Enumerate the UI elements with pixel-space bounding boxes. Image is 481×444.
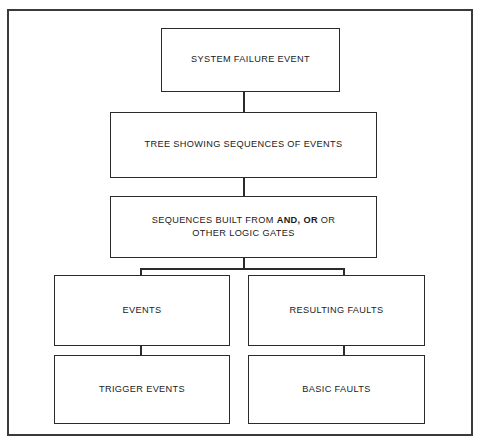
node-sequences-built-from-gates[interactable]: SEQUENCES BUILT FROM AND, OR OR OTHER LO…	[110, 196, 377, 258]
sequences-text-post: OR	[318, 215, 335, 225]
connector-resulting-to-basic-faults	[343, 346, 345, 355]
node-resulting-faults-label: RESULTING FAULTS	[255, 304, 418, 317]
connector-failure-to-tree	[243, 92, 245, 112]
connector-events-to-trigger-events	[140, 346, 142, 355]
node-basic-faults-label: BASIC FAULTS	[255, 383, 418, 396]
connector-branch-bar	[140, 268, 345, 270]
sequences-text-line2: OTHER LOGIC GATES	[192, 228, 294, 238]
node-system-failure-event[interactable]: SYSTEM FAILURE EVENT	[161, 28, 340, 92]
node-trigger-events[interactable]: TRIGGER EVENTS	[54, 355, 230, 424]
node-tree-showing-sequences[interactable]: TREE SHOWING SEQUENCES OF EVENTS	[110, 112, 377, 178]
node-trigger-events-label: TRIGGER EVENTS	[61, 383, 223, 396]
sequences-text-pre: SEQUENCES BUILT FROM	[152, 215, 277, 225]
node-tree-showing-sequences-label: TREE SHOWING SEQUENCES OF EVENTS	[117, 138, 370, 151]
node-resulting-faults[interactable]: RESULTING FAULTS	[248, 275, 425, 346]
node-system-failure-event-label: SYSTEM FAILURE EVENT	[168, 53, 333, 66]
sequences-text-bold-or: OR	[303, 215, 317, 225]
node-events-label: EVENTS	[61, 304, 223, 317]
connector-tree-to-sequences	[243, 178, 245, 196]
node-events[interactable]: EVENTS	[54, 275, 230, 346]
sequences-text-bold-and: AND,	[277, 215, 301, 225]
node-sequences-built-from-gates-label: SEQUENCES BUILT FROM AND, OR OR OTHER LO…	[117, 214, 370, 241]
node-basic-faults[interactable]: BASIC FAULTS	[248, 355, 425, 424]
diagram-canvas: SYSTEM FAILURE EVENT TREE SHOWING SEQUEN…	[0, 0, 481, 444]
